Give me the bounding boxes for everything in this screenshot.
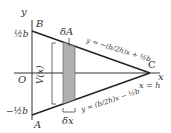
width-label: δx bbox=[62, 115, 74, 126]
strip-label: δA bbox=[60, 26, 73, 37]
diagram-labels: y x O B A C ½b −½b δA δx V(x) y = −(b/2h… bbox=[0, 0, 171, 133]
vertical-line-equation: x = h bbox=[139, 81, 160, 90]
point-a-label: A bbox=[33, 119, 41, 130]
upper-line-equation: y = −(b/2h)x + ½b bbox=[84, 36, 152, 64]
y-tick-bottom: −½b bbox=[6, 106, 28, 116]
height-label: V(x) bbox=[35, 65, 45, 84]
lower-line-equation: y = (b/2h)x − ½b bbox=[79, 87, 141, 114]
point-b-label: B bbox=[35, 18, 43, 29]
y-tick-top: ½b bbox=[14, 29, 29, 39]
origin-label: O bbox=[18, 74, 26, 85]
y-axis-label: y bbox=[20, 6, 27, 17]
